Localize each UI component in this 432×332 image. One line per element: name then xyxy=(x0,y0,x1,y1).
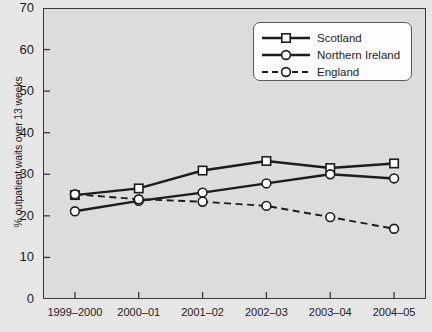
data-point-marker xyxy=(282,34,290,42)
legend-item: England xyxy=(261,63,359,81)
legend-marker-icon xyxy=(261,32,311,44)
y-tick-label: 30 xyxy=(8,167,34,180)
legend-item: Scotland xyxy=(261,29,362,47)
x-tick-label: 2004–05 xyxy=(354,307,432,318)
legend-marker-icon xyxy=(261,49,311,61)
y-tick-label: 70 xyxy=(8,1,34,14)
y-tick-label: 40 xyxy=(8,126,34,139)
legend-label: England xyxy=(317,66,359,78)
chart-legend: ScotlandNorthern IrelandEngland xyxy=(253,22,412,81)
y-tick-label: 20 xyxy=(8,209,34,222)
y-tick-label: 10 xyxy=(8,250,34,263)
line-chart: % outpatient waits over 13 weeks 0102030… xyxy=(0,0,432,332)
legend-item: Northern Ireland xyxy=(261,46,400,64)
y-tick-label: 50 xyxy=(8,84,34,97)
legend-marker-icon xyxy=(261,66,311,78)
y-axis-title: % outpatient waits over 13 weeks xyxy=(12,37,24,267)
y-tick-label: 0 xyxy=(8,292,34,305)
data-point-marker xyxy=(282,51,291,60)
data-point-marker xyxy=(282,68,291,77)
legend-label: Northern Ireland xyxy=(317,49,400,61)
legend-label: Scotland xyxy=(317,32,362,44)
y-tick-label: 60 xyxy=(8,43,34,56)
